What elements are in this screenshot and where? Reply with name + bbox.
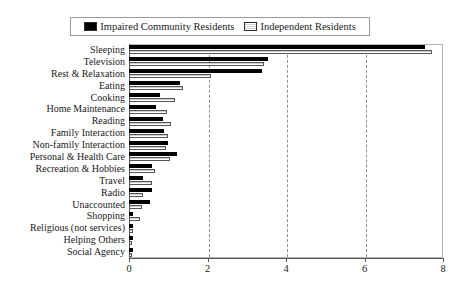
legend-label-impaired: Impaired Community Residents — [100, 21, 234, 32]
x-tick-label: 0 — [126, 263, 131, 274]
bar-impaired — [129, 93, 160, 97]
category-label: Non-family Interaction — [33, 140, 125, 150]
category-label: Sleeping — [90, 45, 125, 55]
bar-row — [129, 68, 443, 80]
bar-row — [129, 175, 443, 187]
bar-chart: Impaired Community Residents Independent… — [0, 0, 461, 283]
category-label: Helping Others — [64, 235, 125, 245]
category-label: Religious (not services) — [30, 223, 125, 233]
x-tick — [286, 258, 287, 262]
x-tick — [129, 258, 130, 262]
bar-impaired — [129, 188, 152, 192]
bar-independent — [129, 181, 152, 185]
bar-row — [129, 246, 443, 258]
category-label: Reading — [92, 116, 125, 126]
bar-row — [129, 127, 443, 139]
bar-impaired — [129, 45, 425, 49]
legend-entry-impaired: Impaired Community Residents — [84, 21, 234, 32]
bar-impaired — [129, 69, 262, 73]
bar-row — [129, 199, 443, 211]
category-label: Shopping — [87, 211, 125, 221]
bar-row — [129, 139, 443, 151]
bar-impaired — [129, 236, 133, 240]
x-tick — [365, 258, 366, 262]
bar-independent — [129, 193, 143, 197]
bar-impaired — [129, 141, 168, 145]
bar-row — [129, 56, 443, 68]
legend-label-independent: Independent Residents — [260, 21, 355, 32]
bar-independent — [129, 122, 171, 126]
bar-independent — [129, 229, 133, 233]
bar-impaired — [129, 105, 156, 109]
x-tick-label: 8 — [440, 263, 445, 274]
bar-row — [129, 115, 443, 127]
bar-independent — [129, 86, 183, 90]
x-tick — [208, 258, 209, 262]
bar-independent — [129, 98, 175, 102]
x-tick — [443, 258, 444, 262]
bar-independent — [129, 205, 142, 209]
bar-row — [129, 210, 443, 222]
category-label: Personal & Health Care — [30, 152, 125, 162]
bar-independent — [129, 62, 264, 66]
bar-independent — [129, 110, 167, 114]
bar-row — [129, 44, 443, 56]
bar-independent — [129, 169, 155, 173]
category-label: Eating — [99, 81, 125, 91]
bar-row — [129, 92, 443, 104]
bar-impaired — [129, 57, 268, 61]
bar-row — [129, 103, 443, 115]
x-tick-label: 6 — [362, 263, 367, 274]
bar-rows — [129, 44, 443, 258]
bar-independent — [129, 74, 211, 78]
category-label: Cooking — [91, 93, 125, 103]
bar-impaired — [129, 152, 177, 156]
bar-independent — [129, 241, 132, 245]
bar-independent — [129, 134, 168, 138]
bar-row — [129, 234, 443, 246]
bar-independent — [129, 157, 170, 161]
category-label: Television — [83, 57, 125, 67]
category-label: Travel — [99, 176, 125, 186]
bar-impaired — [129, 224, 133, 228]
bar-impaired — [129, 81, 180, 85]
category-label: Recreation & Hobbies — [36, 164, 125, 174]
bar-independent — [129, 50, 432, 54]
x-tick-label: 4 — [283, 263, 288, 274]
chart-legend: Impaired Community Residents Independent… — [70, 17, 370, 36]
category-label: Family Interaction — [51, 128, 125, 138]
bar-impaired — [129, 129, 164, 133]
light-hatched-square-icon — [244, 22, 257, 31]
bar-impaired — [129, 164, 152, 168]
bar-impaired — [129, 212, 133, 216]
bar-impaired — [129, 248, 133, 252]
x-tick-label: 2 — [205, 263, 210, 274]
category-label: Social Agency — [67, 247, 125, 257]
legend-entry-independent: Independent Residents — [244, 21, 355, 32]
bar-row — [129, 163, 443, 175]
category-label: Radio — [101, 188, 125, 198]
bar-row — [129, 187, 443, 199]
category-label: Home Maintenance — [46, 104, 125, 114]
bar-row — [129, 222, 443, 234]
bar-impaired — [129, 200, 150, 204]
category-axis-labels: SleepingTelevisionRest & RelaxationEatin… — [0, 44, 127, 258]
bar-row — [129, 80, 443, 92]
category-label: Rest & Relaxation — [51, 69, 125, 79]
bar-independent — [129, 146, 166, 150]
bar-impaired — [129, 176, 143, 180]
bar-independent — [129, 217, 140, 221]
black-square-icon — [84, 22, 97, 31]
bar-impaired — [129, 117, 163, 121]
category-label: Unaccounted — [72, 200, 125, 210]
bar-independent — [129, 253, 132, 257]
bar-row — [129, 151, 443, 163]
